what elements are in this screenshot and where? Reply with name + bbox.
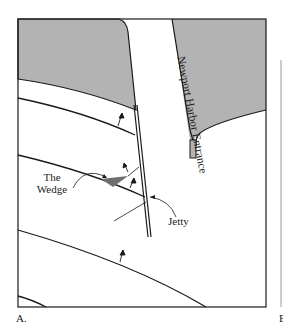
jetty-callout-arrow [150,195,155,199]
jetty-label: Jetty [168,215,189,227]
left-jetty-outer [134,105,148,237]
shoreline-4 [18,296,46,307]
wedge-label-line2: Wedge [34,183,70,195]
panel-label-b: B [279,312,283,324]
wedge-callout-arrow [102,174,107,178]
incident-wave-line [114,202,146,221]
shoreline-3 [18,230,206,307]
wave-arrows [118,113,136,262]
wedge-line [128,167,139,176]
wedge-label-line1: The [34,171,70,183]
wedge-label: The Wedge [34,171,70,195]
left-jetty-inner [137,105,151,237]
diagram-canvas [0,0,283,330]
panel-label-a: A. [16,312,27,324]
jetty-callout [150,197,176,217]
left-land [18,19,136,110]
